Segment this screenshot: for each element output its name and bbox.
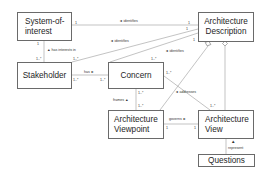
mult-stakeholder-has-interests: 1..* <box>36 57 41 61</box>
assoc-label-identifies-concern: ◄ identifies <box>165 49 184 53</box>
mult-view-governs: 1 <box>194 126 196 130</box>
mult-concern-addresses: 1..* <box>166 71 171 75</box>
class-label-line2: interest <box>25 27 65 37</box>
class-label-line1: Architecture <box>204 17 248 27</box>
mult-stakeholder-identified: 1..* <box>73 57 78 61</box>
assoc-label-governs: governs ► <box>169 117 186 121</box>
class-label: Questions <box>208 156 245 166</box>
assoc-label-identifies-stakeholder: ◄ identifies <box>110 39 129 43</box>
class-concern: Concern <box>108 62 164 89</box>
mult-concern-identified: 1..* <box>151 57 156 61</box>
class-label-line1: System-of- <box>25 17 65 27</box>
mult-ad-identifies-concern: 1 <box>193 38 195 42</box>
mult-sys-identifies: 1 <box>75 21 77 25</box>
class-architecture-viewpoint: Architecture Viewpoint <box>108 110 164 139</box>
mult-viewpoint-frames: 1..* <box>138 104 143 108</box>
class-label-line2: View <box>205 125 249 135</box>
assoc-label-has-interests-in: ▲ has interests in <box>47 48 76 52</box>
mult-view-addresses: 1..* <box>210 104 215 108</box>
class-label: Concern <box>121 71 152 81</box>
class-architecture-view: Architecture View <box>198 110 254 139</box>
assoc-label-has: has ► <box>84 70 94 74</box>
mult-stakeholder-has: 1..* <box>73 78 78 82</box>
class-label: Stakeholder <box>23 71 67 81</box>
class-label-line1: Architecture <box>114 115 158 125</box>
mult-ad-identifies-stakeholder: 1 <box>186 27 188 31</box>
assoc-label-frames: frames ▲ <box>113 98 129 102</box>
assoc-label-addresses: ◄ addresses <box>175 90 196 94</box>
mult-concern-has: 1..* <box>100 78 105 82</box>
class-label-line2: Description <box>204 27 248 37</box>
mult-sys-has-interests: 1 <box>37 42 39 46</box>
mult-ad-identifies-sys: 1 <box>188 21 190 25</box>
class-label-line1: Architecture <box>205 115 249 125</box>
class-stakeholder: Stakeholder <box>17 62 72 89</box>
assoc-label-identifies-system: ◄ identifies <box>119 19 138 23</box>
assoc-label-represent: represent <box>228 146 243 150</box>
mult-concern-frames: 1..* <box>138 91 143 95</box>
class-label-line2: Viewpoint <box>114 125 158 135</box>
class-questions: Questions <box>198 154 255 167</box>
class-system-of-interest: System-of- interest <box>17 12 72 41</box>
class-architecture-description: Architecture Description <box>198 12 254 42</box>
mult-viewpoint-governs: 1 <box>166 126 168 130</box>
assoc-label-represent-arrow: ▲ <box>231 140 235 144</box>
